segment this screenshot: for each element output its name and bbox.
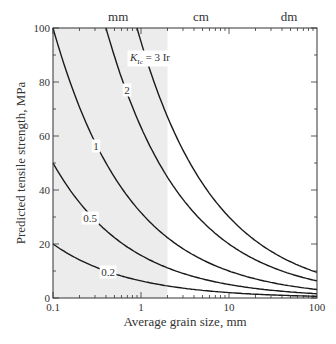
x-axis-label: Average grain size, mm: [123, 314, 246, 329]
curve-label: 1: [93, 140, 99, 152]
chart-canvas: 0.1110100020406080100mmcmdm KIc = 3 Ir21…: [0, 0, 336, 344]
curve-label: 2: [124, 84, 130, 96]
top-unit-label-dm: dm: [281, 9, 298, 24]
y-tick-label: 60: [39, 130, 51, 142]
shaded-rect: [53, 28, 167, 298]
shaded-region: [53, 28, 167, 298]
y-axis-label: Predicted tensile strength, MPa: [13, 82, 28, 245]
x-tick-label: 10: [224, 301, 236, 313]
tensile-strength-chart: 0.1110100020406080100mmcmdm KIc = 3 Ir21…: [0, 0, 336, 344]
x-tick-label: 100: [309, 301, 326, 313]
top-unit-label-mm: mm: [108, 9, 128, 24]
curve-label: 0.5: [83, 212, 97, 224]
x-tick-label: 1: [138, 301, 144, 313]
y-tick-label: 80: [39, 76, 51, 88]
y-tick-label: 40: [39, 184, 51, 196]
y-tick-label: 20: [39, 238, 51, 250]
curve-label: 0.2: [101, 266, 115, 278]
y-tick-label: 100: [34, 22, 51, 34]
y-tick-label: 0: [45, 292, 51, 304]
top-unit-label-cm: cm: [193, 9, 209, 24]
